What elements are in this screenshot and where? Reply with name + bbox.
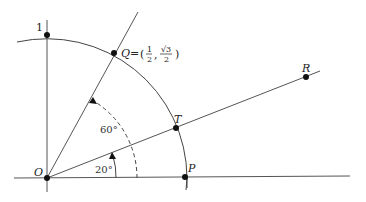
q-x-denominator: 2 [147, 55, 152, 64]
label-t: T [174, 113, 183, 126]
unit-circle-arc-tail [186, 178, 187, 190]
angle-arc-20 [113, 156, 116, 178]
point-o [44, 175, 50, 181]
label-o: O [34, 166, 43, 179]
q-y-denominator: 2 [164, 55, 169, 64]
angle-label-20: 20° [95, 164, 113, 175]
label-q-close-paren: ) [175, 48, 179, 61]
q-x-numerator: 1 [147, 45, 152, 54]
angle-label-60: 60° [100, 124, 118, 135]
unit-circle-diagram: O P T R 1 Q = ( 1 2 , √3 2 ) 60° 20° [0, 0, 366, 202]
point-q [111, 50, 117, 56]
label-q: Q [121, 47, 130, 60]
label-q-eq: = [130, 47, 139, 60]
q-y-numerator: √3 [161, 45, 171, 54]
label-p: P [187, 162, 196, 175]
arrowhead-60-icon [89, 97, 97, 104]
label-one: 1 [36, 21, 43, 34]
label-q-open-paren: ( [140, 48, 144, 61]
ray-oq [47, 12, 138, 178]
point-one [44, 32, 50, 38]
q-comma: , [154, 48, 158, 61]
ray-or [47, 71, 320, 178]
label-r: R [301, 62, 310, 75]
